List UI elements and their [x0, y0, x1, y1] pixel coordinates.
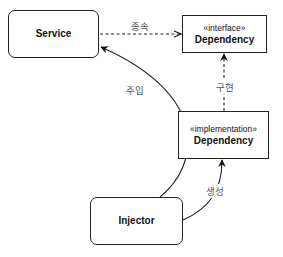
service-title: Service — [36, 28, 72, 40]
implementation-stereotype: «implementation» — [190, 124, 257, 135]
service-node[interactable]: Service — [8, 10, 99, 58]
injects-edge — [101, 47, 188, 197]
depends-label: 종속 — [131, 19, 149, 33]
implementation-title: Dependency — [194, 135, 253, 147]
implementation-dependency-node[interactable]: «implementation» Dependency — [178, 111, 269, 159]
implements-label: 구현 — [216, 80, 234, 94]
interface-title: Dependency — [195, 34, 254, 46]
injector-node[interactable]: Injector — [90, 197, 183, 245]
interface-stereotype: «interface» — [203, 23, 245, 34]
injects-label: 주입 — [126, 83, 144, 97]
injector-title: Injector — [118, 215, 154, 227]
creates-label: 생성 — [206, 184, 224, 198]
interface-dependency-node[interactable]: «interface» Dependency — [182, 15, 267, 53]
